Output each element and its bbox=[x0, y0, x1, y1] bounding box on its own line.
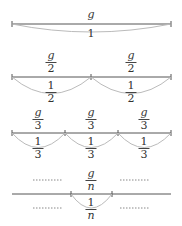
denominator: 3 bbox=[139, 150, 150, 160]
denominator: 3 bbox=[138, 121, 149, 131]
numerator: g bbox=[45, 51, 56, 61]
fraction-1-over-3: 1 3 bbox=[86, 137, 97, 160]
denominator: 2 bbox=[126, 94, 137, 104]
denominator: 3 bbox=[33, 150, 44, 160]
denominator: n bbox=[85, 182, 96, 192]
fraction-g-over-2: g 2 bbox=[45, 51, 56, 74]
numerator: g bbox=[85, 169, 96, 179]
fraction-1-over-3: 1 3 bbox=[33, 137, 44, 160]
denominator: 3 bbox=[86, 150, 97, 160]
numerator: 1 bbox=[126, 81, 137, 91]
fraction-1-over-2: 1 2 bbox=[126, 81, 137, 104]
denominator: 3 bbox=[32, 121, 43, 131]
denominator: 2 bbox=[125, 64, 136, 74]
denominator: 3 bbox=[85, 121, 96, 131]
fraction-1-over-n: 1 n bbox=[85, 198, 96, 221]
numerator: 1 bbox=[46, 81, 57, 91]
fraction-g-over-n: g n bbox=[85, 169, 96, 192]
fraction-1-over-3: 1 3 bbox=[139, 137, 150, 160]
denominator: 2 bbox=[46, 94, 57, 104]
fraction-g-over-3: g 3 bbox=[32, 108, 43, 131]
denominator: 2 bbox=[45, 64, 56, 74]
numerator: 1 bbox=[86, 198, 97, 208]
fraction-g-over-3: g 3 bbox=[138, 108, 149, 131]
numerator: g bbox=[32, 108, 43, 118]
denominator: n bbox=[85, 211, 96, 221]
numerator: 1 bbox=[33, 137, 44, 147]
numerator: g bbox=[85, 108, 96, 118]
label-whole-bottom: 1 bbox=[88, 28, 95, 39]
fraction-g-over-2: g 2 bbox=[125, 51, 136, 74]
numerator: 1 bbox=[139, 137, 150, 147]
row-halves bbox=[12, 74, 171, 94]
label-whole-top: g bbox=[87, 9, 94, 20]
fraction-g-over-3: g 3 bbox=[85, 108, 96, 131]
numerator: 1 bbox=[86, 137, 97, 147]
numerator: g bbox=[138, 108, 149, 118]
numerator: g bbox=[125, 51, 136, 61]
fraction-1-over-2: 1 2 bbox=[46, 81, 57, 104]
